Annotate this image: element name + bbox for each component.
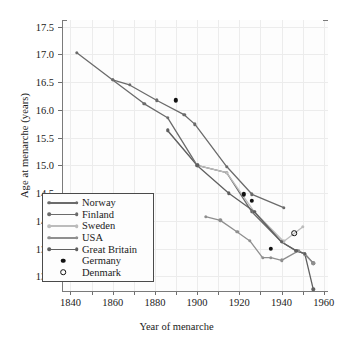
legend-filled-circle-icon xyxy=(61,258,66,263)
data-point xyxy=(269,256,272,259)
y-axis-title: Age at menarche (years) xyxy=(19,56,30,236)
data-point xyxy=(143,102,146,105)
legend-item[interactable]: Great Britain xyxy=(46,243,149,255)
data-point xyxy=(174,98,178,102)
data-point xyxy=(250,193,253,196)
data-point xyxy=(252,210,255,213)
data-point xyxy=(193,123,196,126)
data-point xyxy=(155,99,158,102)
legend-swatch xyxy=(46,197,80,208)
x-axis-tick-label: 1960 xyxy=(313,297,334,308)
chart-legend: NorwayFinlandSwedenUSAGreat BritainGerma… xyxy=(42,193,154,282)
legend-label: Norway xyxy=(80,197,116,208)
legend-dot-icon xyxy=(48,236,52,240)
legend-swatch xyxy=(46,267,80,278)
data-point xyxy=(128,83,131,86)
data-point xyxy=(204,215,207,218)
legend-label: Denmark xyxy=(80,267,121,278)
legend-swatch xyxy=(46,209,80,220)
legend-label: Finland xyxy=(80,209,114,220)
legend-label: Sweden xyxy=(80,220,115,231)
x-axis-tick-label: 1940 xyxy=(271,297,292,308)
data-point xyxy=(236,230,239,233)
y-axis-tick-label: 17.5 xyxy=(36,21,54,32)
legend-dot-icon xyxy=(75,213,79,217)
data-point xyxy=(280,240,283,243)
x-axis-tick-label: 1880 xyxy=(144,297,165,308)
chart-figure: Age at menarche (years) Year of menarche… xyxy=(0,0,353,343)
legend-swatch xyxy=(46,255,80,266)
legend-dot-icon xyxy=(48,247,52,251)
legend-dot-icon xyxy=(75,236,79,240)
data-point xyxy=(301,225,304,228)
data-point xyxy=(261,256,264,259)
legend-item[interactable]: Denmark xyxy=(46,267,149,279)
data-point xyxy=(248,239,251,242)
data-point xyxy=(195,164,198,167)
legend-swatch xyxy=(46,244,80,255)
legend-item[interactable]: USA xyxy=(46,232,149,244)
legend-dot-icon xyxy=(48,224,52,228)
legend-label: USA xyxy=(80,232,103,243)
legend-dot-icon xyxy=(48,213,52,217)
data-point xyxy=(111,78,114,81)
data-point xyxy=(219,219,222,222)
legend-swatch xyxy=(46,232,80,243)
x-axis-tick-label: 1900 xyxy=(187,297,208,308)
data-point xyxy=(166,129,169,132)
legend-item[interactable]: Norway xyxy=(46,197,149,209)
legend-dot-icon xyxy=(75,224,79,228)
legend-label: Great Britain xyxy=(80,244,137,255)
data-point xyxy=(282,206,285,209)
x-axis-tick-label: 1840 xyxy=(60,297,81,308)
data-point xyxy=(312,261,315,264)
x-axis-tick-label: 1860 xyxy=(102,297,123,308)
data-point xyxy=(250,199,254,203)
legend-line-icon xyxy=(48,249,78,251)
data-point xyxy=(291,230,297,236)
legend-line-icon xyxy=(48,225,78,227)
data-point xyxy=(166,116,169,119)
data-point xyxy=(269,246,273,250)
legend-line-icon xyxy=(48,214,78,216)
legend-line-icon xyxy=(48,202,78,204)
y-axis-tick-label: 16.0 xyxy=(36,104,54,115)
x-axis-title: Year of menarche xyxy=(0,321,353,332)
legend-open-circle-icon xyxy=(60,270,66,276)
legend-label: Germany xyxy=(80,255,121,266)
legend-dot-icon xyxy=(75,201,79,205)
data-point xyxy=(303,252,306,255)
legend-line-icon xyxy=(48,237,78,239)
data-point xyxy=(183,113,186,116)
x-axis-tick-label: 1920 xyxy=(229,297,250,308)
legend-dot-icon xyxy=(75,247,79,251)
data-point xyxy=(312,288,315,291)
legend-swatch xyxy=(46,220,80,231)
legend-item[interactable]: Germany xyxy=(46,255,149,267)
data-point xyxy=(75,51,78,54)
legend-item[interactable]: Finland xyxy=(46,209,149,221)
y-axis-tick-label: 16.5 xyxy=(36,77,54,88)
data-point xyxy=(241,192,245,196)
y-axis-tick-label: 15.0 xyxy=(36,160,54,171)
y-axis-tick-label: 15.5 xyxy=(36,132,54,143)
data-point xyxy=(225,165,228,168)
data-point xyxy=(227,191,230,194)
data-point xyxy=(280,259,283,262)
legend-item[interactable]: Sweden xyxy=(46,220,149,232)
legend-dot-icon xyxy=(48,201,52,205)
y-axis-tick-label: 17.0 xyxy=(36,49,54,60)
data-point xyxy=(225,171,228,174)
